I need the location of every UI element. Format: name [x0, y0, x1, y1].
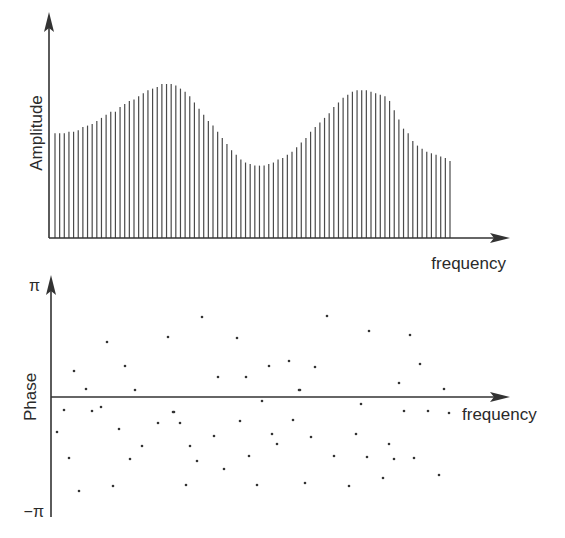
- phase-dot: [201, 316, 204, 319]
- phase-dot: [173, 411, 176, 414]
- phase-dot: [299, 389, 302, 392]
- phase-dot: [196, 460, 199, 463]
- phase-dot: [393, 458, 396, 461]
- phase-dot: [403, 410, 406, 413]
- phase-dot: [256, 484, 259, 487]
- phase-dot: [413, 457, 416, 460]
- phase-dot: [185, 484, 188, 487]
- phase-dot: [292, 419, 295, 422]
- phase-pi-tick: π: [29, 277, 40, 294]
- phase-x-label: frequency: [462, 405, 537, 424]
- phase-dot: [68, 457, 71, 460]
- phase-dot: [314, 366, 317, 369]
- phase-dot: [56, 431, 59, 434]
- phase-dot: [239, 420, 242, 423]
- phase-dot: [124, 365, 127, 368]
- phase-dot: [179, 422, 182, 425]
- amplitude-bars: [55, 84, 450, 238]
- phase-dot: [91, 410, 94, 413]
- phase-dot: [245, 376, 248, 379]
- phase-dot: [167, 336, 170, 339]
- phase-dot: [63, 409, 66, 412]
- phase-dot: [261, 400, 264, 403]
- phase-dot: [85, 388, 88, 391]
- amplitude-y-label: Amplitude: [27, 95, 46, 171]
- phase-dot: [388, 443, 391, 446]
- phase-dot: [236, 337, 239, 340]
- phase-dot: [355, 433, 358, 436]
- phase-dot: [112, 485, 115, 488]
- phase-dot: [129, 458, 132, 461]
- phase-dot: [409, 334, 412, 337]
- phase-dot: [348, 485, 351, 488]
- phase-dot: [223, 468, 226, 471]
- phase-dot: [304, 482, 307, 485]
- phase-dot: [427, 410, 430, 413]
- phase-dot: [78, 490, 81, 493]
- phase-panel: π −π Phase frequency: [21, 275, 537, 520]
- phase-dot: [157, 422, 160, 425]
- phase-dot: [73, 370, 76, 373]
- phase-y-label: Phase: [21, 373, 40, 421]
- spectrum-figure: Amplitude frequency π −π Phase frequency: [0, 0, 565, 538]
- phase-dot: [366, 456, 369, 459]
- phase-dot: [217, 376, 220, 379]
- phase-dot: [398, 382, 401, 385]
- phase-dot: [382, 477, 385, 480]
- phase-minus-pi-tick: −π: [24, 503, 44, 520]
- phase-dot: [268, 365, 271, 368]
- phase-dot: [100, 406, 103, 409]
- phase-dot: [141, 445, 144, 448]
- phase-dot: [271, 433, 274, 436]
- phase-dot: [276, 443, 279, 446]
- amplitude-panel: Amplitude frequency: [27, 12, 510, 273]
- phase-dot: [310, 436, 313, 439]
- phase-dot: [248, 455, 251, 458]
- phase-dot: [443, 388, 446, 391]
- phase-dot: [106, 341, 109, 344]
- phase-dot: [326, 315, 329, 318]
- phase-dot: [333, 455, 336, 458]
- phase-dot: [288, 360, 291, 363]
- phase-dot: [448, 412, 451, 415]
- phase-dots: [56, 315, 451, 493]
- phase-dot: [360, 403, 363, 406]
- phase-dot: [419, 363, 422, 366]
- phase-dot: [368, 330, 371, 333]
- phase-dot: [134, 389, 137, 392]
- phase-dot: [189, 445, 192, 448]
- amplitude-x-label: frequency: [431, 254, 506, 273]
- phase-dot: [213, 435, 216, 438]
- phase-dot: [118, 428, 121, 431]
- phase-dot: [438, 474, 441, 477]
